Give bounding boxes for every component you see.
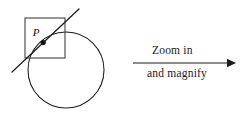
point-p-label: P [32, 26, 40, 38]
caption-and-magnify: and magnify [147, 67, 207, 79]
figure-container: P Zoom in and magnify [0, 0, 246, 115]
circle-shape [28, 32, 104, 108]
transition-arrow-head [227, 59, 236, 68]
caption-zoom-in: Zoom in [152, 44, 193, 56]
point-p-marker [41, 40, 46, 45]
geometry-illustration: P [0, 0, 246, 115]
